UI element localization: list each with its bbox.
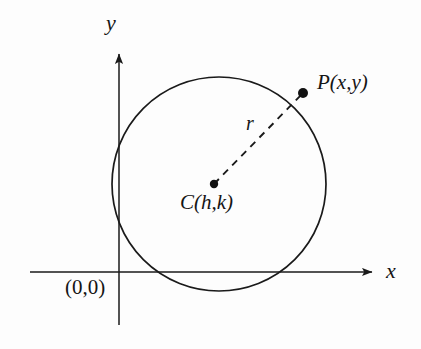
- radius-label: r: [246, 113, 254, 133]
- center-point-label: C(h,k): [180, 192, 233, 213]
- center-point-dot: [210, 180, 218, 188]
- x-axis-label: x: [386, 260, 396, 282]
- y-axis-label: y: [106, 12, 116, 34]
- circle-shape: [112, 77, 326, 291]
- point-p-label: P(x,y): [317, 72, 368, 93]
- figure-svg: [0, 0, 421, 349]
- point-p-dot: [298, 88, 308, 98]
- origin-label: (0,0): [65, 277, 105, 298]
- geometry-figure-canvas: y x (0,0) C(h,k) P(x,y) r: [0, 0, 421, 349]
- radius-dashed-line: [214, 93, 303, 184]
